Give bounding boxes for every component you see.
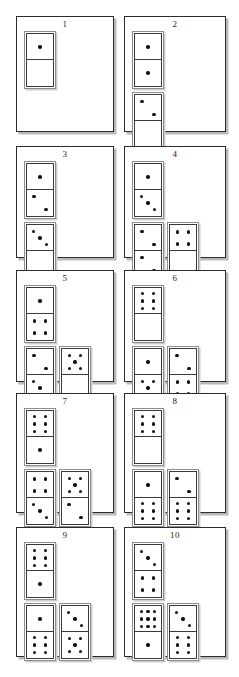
domino-row	[132, 285, 202, 346]
domino-tile[interactable]	[24, 285, 56, 343]
domino-row	[24, 603, 94, 664]
domino-pip	[146, 45, 149, 48]
domino-tile-body	[134, 33, 162, 87]
domino-pip	[32, 503, 35, 506]
panel-8[interactable]: 8	[124, 393, 226, 513]
domino-tile[interactable]	[24, 469, 56, 527]
domino-pip	[44, 331, 47, 334]
domino-tile[interactable]	[132, 542, 164, 600]
panel-3[interactable]: 3	[16, 146, 114, 258]
panel-5[interactable]: 5	[16, 270, 114, 382]
domino-pip	[146, 625, 149, 628]
domino-tile-body	[169, 605, 197, 659]
domino-group-stack	[132, 161, 202, 283]
domino-pip	[176, 230, 179, 233]
domino-row	[132, 161, 202, 222]
domino-pip	[140, 100, 143, 103]
domino-group-stack	[132, 542, 202, 664]
panel-4[interactable]: 4	[124, 146, 226, 258]
domino-pip	[152, 502, 155, 505]
domino-half-bottom	[135, 571, 161, 597]
domino-pip	[33, 643, 36, 646]
domino-tile[interactable]	[59, 603, 91, 661]
domino-half-top	[135, 606, 161, 632]
domino-pip	[146, 175, 149, 178]
domino-tile[interactable]	[167, 469, 199, 527]
domino-pip	[44, 636, 47, 639]
domino-half-top	[27, 349, 53, 375]
domino-half-bottom	[27, 632, 53, 658]
domino-tile-body	[134, 410, 162, 464]
domino-half-top	[170, 606, 196, 632]
panel-2[interactable]: 2	[124, 16, 226, 132]
domino-row	[24, 285, 94, 346]
domino-pip	[68, 354, 71, 357]
domino-tile-body	[134, 287, 162, 341]
domino-pip	[152, 415, 155, 418]
panel-grid: 12345678910	[0, 0, 239, 677]
domino-tile[interactable]	[132, 161, 164, 219]
domino-pip	[67, 503, 70, 506]
domino-tile[interactable]	[24, 408, 56, 466]
domino-tile[interactable]	[132, 603, 164, 661]
domino-pip	[176, 380, 179, 383]
domino-tile[interactable]	[167, 603, 199, 661]
domino-tile[interactable]	[132, 92, 164, 150]
domino-pip	[140, 610, 143, 613]
domino-pip	[176, 651, 179, 654]
domino-half-top	[27, 606, 53, 632]
domino-pip	[33, 564, 36, 567]
domino-pip	[79, 354, 82, 357]
domino-pip	[38, 386, 41, 389]
domino-row	[24, 31, 59, 92]
domino-tile[interactable]	[132, 285, 164, 343]
domino-pip	[79, 637, 82, 640]
domino-pip	[152, 576, 155, 579]
domino-row	[24, 161, 59, 222]
domino-pip	[38, 236, 41, 239]
domino-pip	[68, 477, 71, 480]
panel-number-label: 5	[17, 273, 113, 284]
domino-tile[interactable]	[59, 469, 91, 527]
domino-pip	[33, 331, 36, 334]
domino-pip	[187, 490, 190, 493]
domino-tile[interactable]	[24, 161, 56, 219]
domino-pip	[32, 354, 35, 357]
domino-half-top	[135, 472, 161, 498]
domino-pip	[141, 415, 144, 418]
panel-1[interactable]: 1	[16, 16, 114, 132]
domino-half-top	[135, 225, 161, 251]
domino-pip	[33, 422, 36, 425]
domino-tile[interactable]	[24, 31, 56, 89]
domino-pip	[153, 208, 156, 211]
domino-pip	[33, 477, 36, 480]
domino-tile-body	[134, 471, 162, 525]
panel-9[interactable]: 9	[16, 527, 114, 657]
domino-tile-body	[134, 163, 162, 217]
domino-pip	[141, 509, 144, 512]
domino-pip	[33, 651, 36, 654]
domino-tile[interactable]	[132, 31, 164, 89]
domino-pip	[44, 367, 47, 370]
domino-tile[interactable]	[24, 603, 56, 661]
domino-pip	[146, 556, 149, 559]
domino-pip	[44, 564, 47, 567]
domino-tile[interactable]	[132, 469, 164, 527]
domino-pip	[175, 354, 178, 357]
domino-row	[132, 408, 202, 469]
domino-tile[interactable]	[132, 408, 164, 466]
panel-7[interactable]: 7	[16, 393, 114, 513]
domino-tile[interactable]	[24, 542, 56, 600]
domino-pip	[33, 556, 36, 559]
domino-pip	[44, 549, 47, 552]
domino-pip	[152, 517, 155, 520]
domino-pip	[152, 307, 155, 310]
domino-pip	[38, 175, 41, 178]
panel-6[interactable]: 6	[124, 270, 226, 382]
domino-tile-body	[26, 163, 54, 217]
domino-pip	[141, 292, 144, 295]
panel-10[interactable]: 10	[124, 527, 226, 657]
domino-pip	[187, 636, 190, 639]
domino-pip	[73, 483, 76, 486]
domino-pip	[44, 422, 47, 425]
